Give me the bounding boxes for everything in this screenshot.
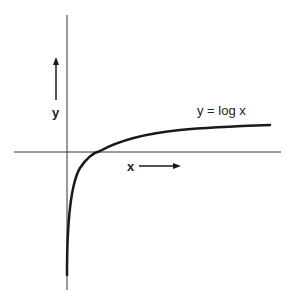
x-direction-arrow-icon: [139, 163, 181, 169]
x-axis-label: x: [127, 159, 135, 174]
log-graph: y x y = log x: [0, 0, 296, 302]
y-axis-label: y: [52, 105, 60, 120]
equation-label: y = log x: [197, 103, 246, 118]
y-direction-arrow-icon: [53, 57, 59, 100]
log-curve: [67, 125, 270, 275]
